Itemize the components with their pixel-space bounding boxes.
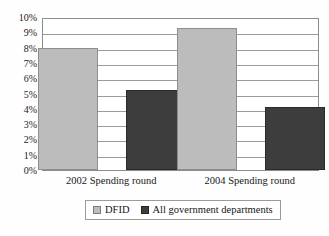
- y-tick-label: 3%: [24, 120, 37, 130]
- y-tick-label: 10%: [19, 13, 37, 23]
- y-tick-label: 2%: [24, 135, 37, 145]
- legend-label: DFID: [105, 204, 130, 216]
- category-label: 2002 Spending round: [42, 175, 181, 187]
- bar-chart-figure: 0%1%2%3%4%5%6%7%8%9%10% 2002 Spending ro…: [0, 0, 329, 236]
- bar-1-0: [177, 28, 237, 170]
- y-tick-label: 5%: [24, 90, 37, 100]
- legend-swatch-icon: [93, 206, 101, 214]
- y-tick-label: 0%: [24, 166, 37, 176]
- legend-entry: DFID: [93, 204, 130, 216]
- chart-legend: DFIDAll government departments: [85, 200, 281, 220]
- category-label: 2004 Spending round: [181, 175, 320, 187]
- bar-0-0: [38, 48, 98, 170]
- legend-swatch-icon: [141, 206, 149, 214]
- y-axis-tick-labels: 0%1%2%3%4%5%6%7%8%9%10%: [0, 18, 40, 171]
- y-tick-label: 4%: [24, 105, 37, 115]
- y-tick-label: 9%: [24, 28, 37, 38]
- y-tick-label: 8%: [24, 44, 37, 54]
- legend-entry: All government departments: [141, 204, 273, 216]
- y-tick-label: 7%: [24, 59, 37, 69]
- plot-area: [42, 18, 319, 171]
- bar-1-1: [265, 107, 325, 170]
- legend-label: All government departments: [153, 204, 273, 216]
- y-tick-label: 6%: [24, 74, 37, 84]
- y-tick-label: 1%: [24, 151, 37, 161]
